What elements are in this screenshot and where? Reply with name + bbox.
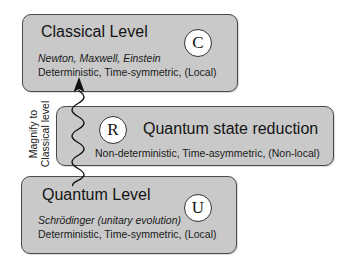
classical-symbol-c: C (184, 29, 212, 57)
quantum-properties: Deterministic, Time-symmetric, (Local) (38, 228, 217, 240)
quantum-equation-name: Schrödinger (unitary evolution) (38, 214, 181, 226)
magnify-label-line2: Classical level (39, 101, 51, 168)
quantum-symbol-u: U (184, 194, 212, 222)
reduction-properties: Non-deterministic, Time-asymmetric, (Non… (95, 147, 320, 159)
magnify-label: Magnify to Classical level (27, 101, 51, 168)
classical-level-title: Classical Level (41, 23, 148, 41)
magnify-label-line1: Magnify to (27, 101, 39, 168)
classical-physicists: Newton, Maxwell, Einstein (38, 52, 161, 64)
quantum-level-title: Quantum Level (42, 186, 151, 204)
reduction-symbol-r: R (99, 116, 127, 144)
classical-properties: Deterministic, Time-symmetric, (Local) (38, 66, 217, 78)
reduction-title: Quantum state reduction (143, 120, 318, 138)
